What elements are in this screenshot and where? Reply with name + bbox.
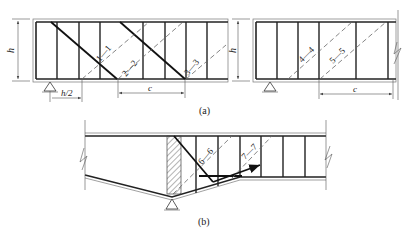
caption-a: (a) [199,105,210,117]
break-line-icon [394,10,401,100]
diagram-canvas: 1—1 2—2 3—3 h h/2 c [0,0,410,233]
offset-label: h/2 [61,88,73,98]
section-label-2: 2—2 [120,58,139,78]
section-label-6: 6—6 [196,146,216,167]
caption-b: (b) [198,216,210,228]
beam-a-left: 1—1 2—2 3—3 h h/2 c [5,19,228,102]
break-line-left-icon [80,120,87,190]
break-line-right-icon [325,120,332,190]
spacing-dimension: c [118,80,185,98]
spacing-dimension: c [319,80,393,99]
section-label-5: 5—5 [327,45,347,65]
section-label-4: 4—4 [296,44,316,64]
support-icon [164,199,180,210]
section-label-3: 3—3 [182,57,202,78]
support-icon [42,82,58,92]
hatched-column [167,136,181,194]
height-dimension: h [227,19,250,81]
height-label: h [5,48,16,53]
height-dimension: h [5,19,30,81]
section-label-7: 7—7 [239,141,259,161]
section-label-1: 1—1 [94,43,113,63]
height-label: h [227,48,238,53]
stirrups [277,22,388,79]
spacing-label: c [353,84,357,94]
beam-b: 6—6 7—7 [80,120,332,210]
beam-outline [253,19,396,82]
spacing-label: c [148,83,152,93]
beam-a-right: 4—4 5—5 h c [227,10,401,100]
support-icon [262,82,278,92]
